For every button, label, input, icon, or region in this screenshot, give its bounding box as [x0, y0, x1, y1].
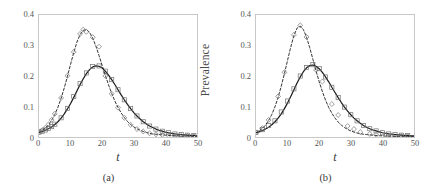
- y-tick-label: 0: [8, 134, 34, 143]
- marker-diamond: [320, 79, 325, 84]
- y-tick-label: 0.3: [8, 41, 34, 50]
- y-tick-label: 0.4: [8, 10, 34, 19]
- x-tick-label: 10: [283, 139, 292, 148]
- y-tick-label: 0.2: [8, 72, 34, 81]
- marker-diamond: [336, 113, 341, 118]
- x-tick-label: 40: [162, 139, 171, 148]
- x-tick-label: 30: [347, 139, 356, 148]
- marker-diamond: [345, 124, 350, 129]
- x-axis-label: t: [255, 150, 415, 165]
- y-tick-label: 0.3: [225, 41, 251, 50]
- curve-model-dashed: [256, 26, 414, 137]
- x-tick-label: 30: [130, 139, 139, 148]
- series-group-a: [39, 27, 197, 137]
- y-axis-ticks-b: 0.4 0.3 0.2 0.1 0: [223, 14, 251, 138]
- figure-container: 0.4 0.3 0.2 0.1 0 Prevalence 0 10 20 30 …: [0, 0, 434, 196]
- curve-model-dashed: [39, 30, 197, 137]
- x-tick-label: 0: [253, 139, 257, 148]
- panel-a: 0.4 0.3 0.2 0.1 0 Prevalence 0 10 20 30 …: [0, 0, 217, 196]
- marker-diamond: [97, 44, 102, 49]
- plot-area-a: [38, 14, 198, 138]
- x-tick-label: 10: [66, 139, 75, 148]
- panel-caption: (a): [0, 172, 217, 183]
- curve-model-solid: [256, 65, 414, 136]
- marker-diamond: [367, 131, 372, 136]
- x-axis-label: t: [38, 150, 198, 165]
- y-axis-label: Prevalence: [199, 8, 215, 132]
- x-tick-label: 0: [36, 139, 40, 148]
- y-tick-label: 0.2: [225, 72, 251, 81]
- plot-area-b: [255, 14, 415, 138]
- panel-caption: (b): [217, 172, 434, 183]
- y-tick-label: 0.1: [8, 103, 34, 112]
- x-tick-label: 20: [98, 139, 107, 148]
- y-tick-label: 0.4: [225, 10, 251, 19]
- x-tick-label: 50: [194, 139, 203, 148]
- y-tick-label: 0: [225, 134, 251, 143]
- marker-diamond: [329, 102, 334, 107]
- marker-diamond: [351, 127, 356, 132]
- y-axis-ticks-a: 0.4 0.3 0.2 0.1 0: [6, 14, 34, 138]
- curve-model-solid: [39, 66, 197, 136]
- panel-b: 0.4 0.3 0.2 0.1 0 Prevalence 0 10 20 30 …: [217, 0, 434, 196]
- plot-svg-b: [256, 15, 414, 137]
- marker-diamond: [298, 23, 303, 28]
- y-tick-label: 0.1: [225, 103, 251, 112]
- series-group-b: [256, 23, 414, 137]
- plot-svg-a: [39, 15, 197, 137]
- x-tick-label: 20: [315, 139, 324, 148]
- x-tick-label: 40: [379, 139, 388, 148]
- x-tick-label: 50: [411, 139, 420, 148]
